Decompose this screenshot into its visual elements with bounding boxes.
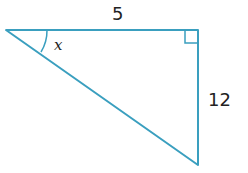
right-triangle xyxy=(6,30,198,165)
side-label-top: 5 xyxy=(112,3,123,24)
angle-arc xyxy=(41,30,47,52)
triangle-diagram: 5 12 x xyxy=(0,0,248,173)
side-label-right: 12 xyxy=(208,89,231,110)
right-angle-marker xyxy=(185,30,198,43)
angle-label: x xyxy=(54,36,63,54)
